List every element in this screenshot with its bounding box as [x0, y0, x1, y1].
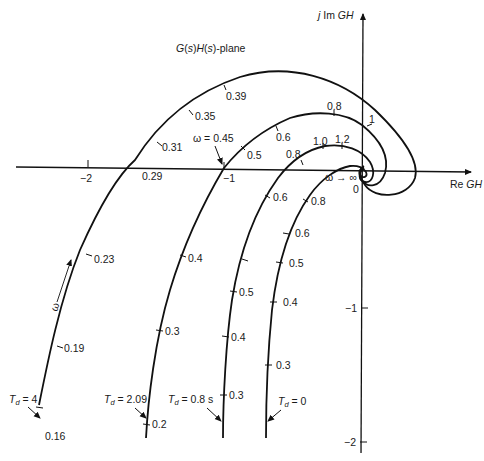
imag-axis-label: j Im GH [316, 9, 354, 21]
td-0.8-label: Td = 0.8 s [168, 393, 213, 407]
omega-direction-label: ω [47, 301, 61, 313]
freq-0.6-b: 0.6 [273, 191, 288, 203]
freq-0.8: 0.8 [327, 100, 342, 112]
freq-0.3-b: 0.3 [229, 389, 244, 401]
freq-0.8-b: 0.8 [286, 148, 301, 160]
axes [16, 14, 471, 453]
freq-1: 1 [369, 113, 375, 125]
freq-0.29: 0.29 [142, 170, 163, 182]
freq-0.8-c: 0.8 [311, 195, 326, 207]
y-tick-label-minus-2: −2 [344, 436, 356, 448]
nyquist-plot: −2 −1 0 −1 −2 Re GH j Im GH G(s)H(s)-pla… [0, 0, 484, 461]
freq-0.5-b: 0.5 [239, 286, 254, 298]
td-0.8-arrow-icon [207, 408, 221, 421]
freq-0.19: 0.19 [64, 342, 85, 354]
freq-0.3-c: 0.3 [276, 359, 291, 371]
freq-1.2: 1.2 [335, 133, 350, 145]
omega-045-arrow-icon [215, 146, 222, 164]
freq-0.6: 0.6 [276, 131, 291, 143]
omega-045-label: ω = 0.45 [193, 132, 234, 144]
freq-0.4-b: 0.4 [231, 331, 246, 343]
freq-0.5-c: 0.5 [289, 257, 304, 269]
td-0-label: Td = 0 [278, 395, 307, 409]
freq-0.2: 0.2 [152, 418, 167, 430]
real-axis-label: Re GH [450, 178, 483, 190]
imag-axis [361, 14, 363, 453]
freq-0.6-c: 0.6 [295, 227, 310, 239]
freq-0.4: 0.4 [188, 252, 203, 264]
omega-inf-label: ω → ∞ [325, 171, 357, 183]
freq-0.3: 0.3 [165, 325, 180, 337]
td-2.09-label: Td = 2.09 [104, 393, 147, 407]
freq-0.5: 0.5 [247, 149, 262, 161]
freq-0.39: 0.39 [226, 90, 247, 102]
td-4-arrow-icon [28, 407, 40, 418]
freq-1.0: 1.0 [313, 135, 328, 147]
freq-0.35: 0.35 [195, 110, 216, 122]
freq-0.16: 0.16 [45, 430, 66, 442]
td-0-arrow-icon [268, 410, 281, 421]
td-4-label: Td = 4 [9, 393, 38, 407]
td-2.09-arrow-icon [135, 408, 146, 418]
ticks-td-0 [265, 199, 308, 365]
freq-0.23: 0.23 [94, 253, 115, 265]
curve-td-4 [39, 71, 416, 405]
plane-title: G(s)H(s)-plane [176, 42, 246, 54]
x-tick-label-minus-2: −2 [80, 172, 92, 184]
x-tick-label-minus-1: −1 [223, 172, 235, 184]
freq-0.31: 0.31 [162, 141, 183, 153]
freq-0.4-c: 0.4 [283, 296, 298, 308]
origin-label: 0 [353, 183, 359, 195]
y-tick-label-minus-1: −1 [345, 302, 357, 314]
